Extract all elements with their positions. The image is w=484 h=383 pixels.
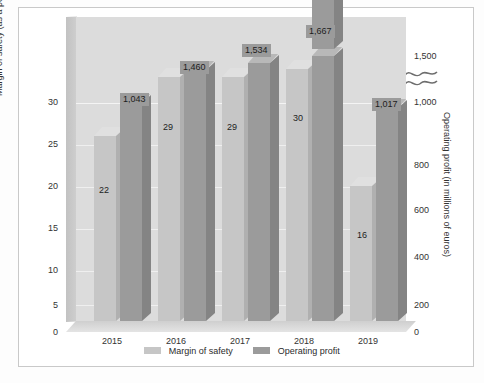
data-label-margin-of-safety-2015: 22 <box>96 184 112 197</box>
bar-side-face <box>270 55 279 321</box>
left-axis-tick-0: 0 <box>32 327 58 337</box>
legend-label-operating-profit: Operating profit <box>278 346 340 356</box>
data-label-margin-of-safety-2019: 16 <box>354 229 370 242</box>
bar-front-face <box>286 69 308 321</box>
bar-front-face <box>248 63 270 321</box>
bar-front-face <box>158 77 180 321</box>
left-axis-tick-5: 5 <box>32 300 58 310</box>
bar-operating-profit-2016[interactable] <box>184 70 206 321</box>
bar-margin-of-safety-2017[interactable] <box>222 77 244 321</box>
bar-operating-profit-2018[interactable] <box>312 56 334 321</box>
figure-container: Margin of safety (as a percentage of BEP… <box>0 0 484 383</box>
bar-front-face <box>350 186 372 321</box>
bar-front-face <box>222 77 244 321</box>
bar-operating-profit-2019[interactable] <box>376 108 398 321</box>
bar-margin-of-safety-2018[interactable] <box>286 69 308 321</box>
bar-margin-of-safety-2016[interactable] <box>158 77 180 321</box>
data-label-operating-profit-2015: 1,043 <box>120 93 149 106</box>
legend-item-operating-profit[interactable]: Operating profit <box>253 345 340 356</box>
left-axis-tick-30: 30 <box>32 97 58 107</box>
bar-side-face <box>206 62 215 321</box>
bar-side-face <box>142 95 151 321</box>
axis-break-squiggle-icon <box>404 66 438 90</box>
right-axis-tick-1500: 1,500 <box>414 51 448 61</box>
right-axis-title: Operating profit (in millions of euros) <box>442 112 452 257</box>
bar-operating-profit-2017[interactable] <box>248 63 270 321</box>
data-label-operating-profit-2016: 1,460 <box>180 61 209 74</box>
left-axis-tick-15: 15 <box>32 223 58 233</box>
plot-floor <box>66 321 416 332</box>
bar-side-face <box>334 0 343 49</box>
legend-swatch-operating-profit <box>253 347 270 354</box>
data-label-operating-profit-2017: 1,534 <box>242 44 271 57</box>
bar-front-face <box>184 70 206 321</box>
bar-operating-profit-2015[interactable] <box>120 103 142 321</box>
legend-label-margin-of-safety: Margin of safety <box>169 346 233 356</box>
legend-swatch-margin-of-safety <box>144 347 161 354</box>
left-axis-title: Margin of safety (as a percentage of BEP… <box>0 0 4 96</box>
bar-side-face <box>334 48 343 321</box>
bar-front-face <box>312 56 334 321</box>
data-label-operating-profit-2018: 1,667 <box>306 25 335 38</box>
plot-area: 22 1,043 29 1,460 <box>66 17 406 332</box>
right-axis-tick-0: 0 <box>414 327 448 337</box>
bar-front-face <box>94 136 116 321</box>
data-label-margin-of-safety-2018: 30 <box>290 112 306 125</box>
figure-caption <box>20 374 468 383</box>
data-label-margin-of-safety-2017: 29 <box>224 121 240 134</box>
chart-legend: Margin of safety Operating profit <box>0 345 484 356</box>
bar-front-face <box>120 103 142 321</box>
legend-item-margin-of-safety[interactable]: Margin of safety <box>144 345 233 356</box>
right-axis-tick-200: 200 <box>414 300 448 310</box>
bar-margin-of-safety-2019[interactable] <box>350 186 372 321</box>
left-axis-tick-10: 10 <box>32 265 58 275</box>
data-label-margin-of-safety-2016: 29 <box>160 121 176 134</box>
left-axis-tick-20: 20 <box>32 181 58 191</box>
bar-side-face <box>398 100 407 321</box>
data-label-operating-profit-2019: 1,017 <box>372 98 401 111</box>
bar-front-face <box>376 108 398 321</box>
bar-margin-of-safety-2015[interactable] <box>94 136 116 321</box>
left-axis-tick-25: 25 <box>32 139 58 149</box>
right-axis-tick-1000: 1,000 <box>414 97 448 107</box>
